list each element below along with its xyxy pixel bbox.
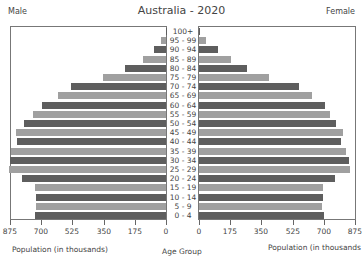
male-bar (125, 65, 166, 72)
female-bar (199, 157, 349, 164)
age-group-label: 100+ (167, 27, 199, 36)
left-axis-tick-label: 875 (0, 227, 25, 236)
female-bar (199, 102, 325, 109)
left-axis-tick (135, 220, 136, 225)
age-group-label: 90 - 94 (167, 45, 199, 54)
right-axis-tick-label: 875 (340, 227, 363, 236)
age-group-label: 55 - 59 (167, 110, 199, 119)
age-group-label: 80 - 84 (167, 64, 199, 73)
female-bar (199, 166, 350, 173)
age-group-label: 75 - 79 (167, 73, 199, 82)
right-axis-tick-label: 0 (184, 227, 214, 236)
female-bar (199, 148, 346, 155)
male-bar (16, 129, 166, 136)
age-group-label: 25 - 29 (167, 165, 199, 174)
age-group-label: 30 - 34 (167, 156, 199, 165)
left-axis-tick-label: 175 (120, 227, 150, 236)
age-group-label: 85 - 89 (167, 55, 199, 64)
male-bar (11, 148, 166, 155)
male-bar (22, 175, 166, 182)
left-axis-tick-label: 525 (57, 227, 87, 236)
right-axis-tick (324, 220, 325, 225)
female-bar (199, 203, 322, 210)
female-label: Female (326, 7, 355, 16)
male-bar (143, 56, 166, 63)
right-axis-tick (230, 220, 231, 225)
male-bar (33, 111, 166, 118)
female-bar (199, 37, 206, 44)
age-group-label: 50 - 54 (167, 119, 199, 128)
female-bar (199, 92, 312, 99)
right-axis-tick-label: 525 (278, 227, 308, 236)
age-group-label: 35 - 39 (167, 147, 199, 156)
age-group-label: 20 - 24 (167, 174, 199, 183)
left-axis-tick (104, 220, 105, 225)
female-bar (199, 46, 218, 53)
female-bar (199, 194, 323, 201)
age-group-label: 95 - 99 (167, 36, 199, 45)
female-bar (199, 138, 341, 145)
right-axis-tick (355, 220, 356, 225)
right-axis-tick-label: 175 (215, 227, 245, 236)
female-bar (199, 28, 200, 35)
male-bar (36, 203, 166, 210)
male-bar (10, 157, 166, 164)
male-bar (154, 46, 166, 53)
age-group-label: 5 - 9 (167, 202, 199, 211)
left-axis-tick (41, 220, 42, 225)
female-bar (199, 56, 231, 63)
left-axis-title: Population (in thousands) (12, 245, 108, 254)
male-bar (103, 74, 166, 81)
left-axis-tick-label: 700 (26, 227, 56, 236)
age-group-label: 40 - 44 (167, 137, 199, 146)
age-group-label: 15 - 19 (167, 183, 199, 192)
left-axis-tick (166, 220, 167, 225)
male-bar (71, 83, 166, 90)
female-bar (199, 212, 324, 219)
male-bar (58, 92, 166, 99)
male-bar (161, 37, 166, 44)
female-bar (199, 65, 247, 72)
age-group-label: 70 - 74 (167, 82, 199, 91)
female-bar (199, 129, 343, 136)
right-axis-tick-label: 700 (309, 227, 339, 236)
right-axis-tick-label: 350 (246, 227, 276, 236)
male-bar (17, 138, 166, 145)
right-axis-tick (293, 220, 294, 225)
chart-title: Australia - 2020 (0, 4, 363, 17)
right-axis-tick (261, 220, 262, 225)
age-group-label: 65 - 69 (167, 91, 199, 100)
left-axis-tick-label: 0 (151, 227, 181, 236)
male-bar (35, 184, 166, 191)
center-axis-title: Age Group (162, 247, 202, 256)
female-bar (199, 184, 323, 191)
left-axis-tick (10, 220, 11, 225)
male-label: Male (8, 7, 27, 16)
female-bar (199, 83, 299, 90)
male-bar (42, 102, 166, 109)
right-axis-title: Population (in thousands (268, 243, 361, 252)
age-group-label: 60 - 64 (167, 101, 199, 110)
female-bar (199, 120, 336, 127)
left-axis-tick-label: 350 (89, 227, 119, 236)
female-bar (199, 111, 330, 118)
female-bar (199, 175, 335, 182)
age-group-label: 10 - 14 (167, 193, 199, 202)
left-axis-tick (72, 220, 73, 225)
age-group-label: 45 - 49 (167, 128, 199, 137)
male-bar (24, 120, 166, 127)
right-axis-tick (199, 220, 200, 225)
female-bar (199, 74, 269, 81)
age-group-label: 0 - 4 (167, 211, 199, 220)
male-bar (9, 166, 166, 173)
male-bar (35, 212, 166, 219)
male-bar (36, 194, 166, 201)
